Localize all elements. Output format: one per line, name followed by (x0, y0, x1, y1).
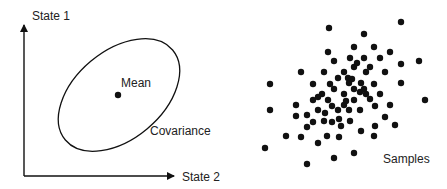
sample-point (357, 107, 363, 113)
gaussian-diagram: State 1 State 2 Mean Covariance Samples (0, 0, 447, 189)
sample-point (335, 75, 341, 81)
mean-label: Mean (121, 76, 151, 90)
mean-point (115, 92, 121, 98)
sample-point (335, 107, 341, 113)
sample-point (336, 116, 342, 122)
sample-point (422, 97, 428, 103)
sample-point (367, 64, 373, 70)
sample-points (262, 19, 428, 167)
sample-point (338, 123, 344, 129)
sample-point (331, 155, 337, 161)
sample-point (363, 69, 369, 75)
sample-point (331, 86, 337, 92)
sample-point (387, 102, 393, 108)
samples-label: Samples (383, 152, 430, 166)
sample-point (304, 112, 310, 118)
sample-point (387, 49, 393, 55)
sample-point (326, 25, 332, 31)
sample-point (321, 118, 327, 124)
sample-point (372, 123, 378, 129)
sample-point (357, 89, 363, 95)
sample-point (377, 55, 383, 61)
sample-point (325, 49, 331, 55)
sample-point (341, 69, 347, 75)
sample-point (336, 134, 342, 140)
sample-point (398, 80, 404, 86)
sample-point (398, 19, 404, 25)
sample-point (298, 134, 304, 140)
sample-point (331, 58, 337, 64)
sample-point (315, 140, 321, 146)
sample-point (341, 91, 347, 97)
sample-point (347, 118, 353, 124)
sample-point (351, 44, 357, 50)
sample-point (371, 133, 377, 139)
sample-point (382, 69, 388, 75)
sample-point (377, 91, 383, 97)
covariance-label: Covariance (150, 124, 211, 138)
sample-point (262, 145, 268, 151)
sample-point (322, 110, 328, 116)
sample-point (367, 96, 373, 102)
sample-point (416, 58, 422, 64)
sample-point (321, 69, 327, 75)
sample-point (304, 161, 310, 167)
sample-point (304, 124, 310, 130)
sample-point (327, 81, 333, 87)
sample-point (372, 103, 378, 109)
sample-point (315, 107, 321, 113)
sample-point (351, 150, 357, 156)
sample-point (283, 133, 289, 139)
sample-point (298, 69, 304, 75)
sample-point (315, 94, 321, 100)
sample-point (382, 114, 388, 120)
sample-point (267, 81, 273, 87)
sample-point (329, 119, 335, 125)
sample-point (310, 81, 316, 87)
sample-point (349, 76, 355, 82)
sample-point (361, 55, 367, 61)
sample-point (293, 102, 299, 108)
y-axis-label: State 1 (32, 9, 70, 23)
sample-point (329, 103, 335, 109)
sample-point (351, 86, 357, 92)
sample-point (398, 61, 404, 67)
sample-point (325, 97, 331, 103)
sample-point (343, 98, 349, 104)
sample-point (347, 55, 353, 61)
sample-point (371, 81, 377, 87)
sample-point (371, 44, 377, 50)
sample-point (358, 128, 364, 134)
sample-point (267, 107, 273, 113)
left-panel: State 1 State 2 Mean Covariance (24, 9, 220, 184)
sample-point (363, 91, 369, 97)
sample-point (293, 113, 299, 119)
x-axis-label: State 2 (182, 170, 220, 184)
sample-point (358, 80, 364, 86)
sample-point (351, 97, 357, 103)
right-panel: Samples (262, 19, 430, 167)
sample-point (310, 119, 316, 125)
sample-point (324, 133, 330, 139)
sample-point (392, 122, 398, 128)
sample-point (354, 60, 360, 66)
sample-point (361, 31, 367, 37)
sample-point (346, 107, 352, 113)
